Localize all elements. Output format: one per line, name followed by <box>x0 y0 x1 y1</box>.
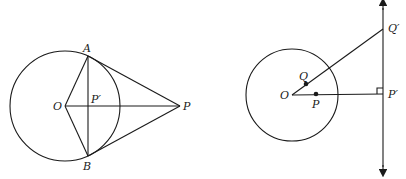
segment-OB <box>65 106 88 156</box>
tangent-PB <box>88 106 180 156</box>
geometry-diagram: A B O P P′ O Q P Q′ P′ <box>0 0 406 179</box>
label-Q-prime: Q′ <box>388 22 400 35</box>
label-A: A <box>82 42 91 55</box>
right-angle-mark-icon <box>377 88 383 94</box>
label-O: O <box>280 89 289 102</box>
tangent-PA <box>88 56 180 106</box>
label-P: P <box>311 98 320 111</box>
label-P: P <box>182 100 191 113</box>
right-figure: O Q P Q′ P′ <box>246 2 400 173</box>
label-B: B <box>82 160 91 173</box>
label-Q: Q <box>299 70 308 83</box>
segment-OA <box>65 56 88 106</box>
point-P-dot-icon <box>314 92 319 97</box>
label-P-prime: P′ <box>90 93 101 106</box>
label-P-prime: P′ <box>387 88 398 101</box>
left-figure: A B O P P′ <box>10 42 191 173</box>
label-O: O <box>53 100 62 113</box>
ray-OP-prime <box>292 94 383 95</box>
